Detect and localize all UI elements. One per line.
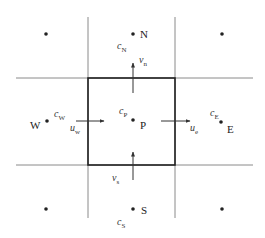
- node-dot-w: [45, 119, 49, 123]
- concentration-label-s: cS: [117, 216, 125, 230]
- velocity-label-south: vs: [112, 172, 119, 186]
- node-dot-nw: [44, 32, 48, 36]
- concentration-label-e: cE: [210, 107, 219, 121]
- velocity-label-west: uw: [70, 122, 81, 136]
- diagram-canvas: N W P E S cN cW cP cE cS vn vs uw ue: [0, 0, 265, 238]
- node-dot-p: [131, 118, 135, 122]
- node-dot-ne: [220, 32, 224, 36]
- node-dot-e: [219, 120, 223, 124]
- node-dot-n: [131, 32, 135, 36]
- node-label-s: S: [141, 204, 147, 216]
- node-label-p: P: [140, 119, 146, 131]
- concentration-label-p: cP: [119, 105, 127, 119]
- node-dot-s: [131, 207, 135, 211]
- node-dot-sw: [44, 207, 48, 211]
- velocity-label-north: vn: [139, 54, 147, 68]
- node-label-e: E: [227, 123, 234, 135]
- concentration-label-n: cN: [117, 40, 127, 54]
- node-label-n: N: [140, 28, 148, 40]
- concentration-label-w: cW: [54, 108, 65, 122]
- finite-volume-diagram: N W P E S cN cW cP cE cS vn vs uw ue: [0, 0, 265, 238]
- node-label-w: W: [30, 119, 41, 131]
- node-dot-se: [220, 207, 224, 211]
- velocity-label-east: ue: [190, 122, 198, 136]
